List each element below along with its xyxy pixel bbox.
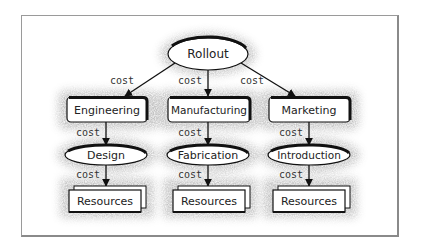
node-label: Rollout [187,47,229,61]
node-marketing: Marketing [269,97,350,122]
node-label: Resources [281,195,337,208]
node-label: Introduction [277,149,341,161]
edge-label: cost [76,127,100,138]
edge-label: cost [178,127,202,138]
edge-label: cost [110,75,134,86]
node-label: Marketing [282,104,337,117]
node-resources-1: Resources [69,186,146,212]
node-resources-2: Resources [173,186,250,212]
node-label: Resources [181,195,237,208]
node-label: Resources [77,195,133,208]
edge-label: cost [279,127,303,138]
edge-label: cost [178,75,202,86]
node-label: Design [87,149,125,162]
edge-label: cost [279,169,303,180]
node-label: Manufacturing [171,104,247,116]
tree-diagram: cost cost cost cost cost cost cost cost … [0,0,422,247]
node-rollout: Rollout [168,37,248,70]
node-manufacturing: Manufacturing [168,97,250,122]
edge-label: cost [240,75,264,86]
node-label: Fabrication [178,149,239,162]
edge-label: cost [178,169,202,180]
edge-label: cost [76,169,100,180]
node-design: Design [65,145,147,165]
node-introduction: Introduction [268,145,350,165]
node-engineering: Engineering [67,97,147,122]
node-label: Engineering [74,104,140,117]
node-resources-3: Resources [273,186,350,212]
node-fabrication: Fabrication [167,145,249,165]
